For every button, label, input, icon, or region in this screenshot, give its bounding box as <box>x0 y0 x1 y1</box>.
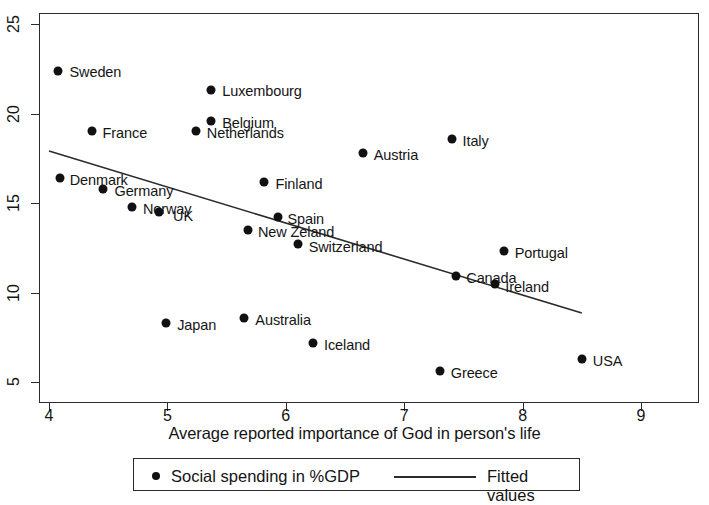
y-tick-label: 5 <box>6 367 22 397</box>
legend-label-fitted: Fitted values <box>487 467 579 505</box>
y-tick-mark <box>31 24 39 25</box>
y-tick-mark <box>31 382 39 383</box>
data-point-label: Germany <box>114 184 173 199</box>
data-point-marker <box>54 66 63 75</box>
data-point-label: Australia <box>255 313 311 328</box>
data-point-label: Finland <box>275 177 322 192</box>
data-point-marker <box>162 318 171 327</box>
y-tick-mark <box>31 114 39 115</box>
legend-label-scatter: Social spending in %GDP <box>171 467 360 486</box>
legend: Social spending in %GDP Fitted values <box>133 458 580 491</box>
data-point-marker <box>435 367 444 376</box>
data-point-marker <box>207 86 216 95</box>
legend-line-icon <box>394 476 476 478</box>
y-tick-label: 20 <box>6 99 22 129</box>
data-point-marker <box>499 247 508 256</box>
data-point-label: Italy <box>463 134 489 149</box>
y-tick-label: 25 <box>6 9 22 39</box>
x-tick-label: 6 <box>271 408 301 424</box>
data-point-label: Portugal <box>515 246 568 261</box>
y-tick-mark <box>31 203 39 204</box>
y-tick-label: 10 <box>6 278 22 308</box>
data-point-label: Netherlands <box>207 126 284 141</box>
data-point-label: USA <box>593 354 623 369</box>
data-point-label: New Zeland <box>258 225 334 240</box>
data-point-label: Sweden <box>69 65 121 80</box>
data-point-marker <box>155 207 164 216</box>
data-point-label: Greece <box>451 366 498 381</box>
data-point-label: Switzerland <box>309 240 383 255</box>
data-point-label: UK <box>173 209 193 224</box>
data-point-marker <box>309 338 318 347</box>
data-point-marker <box>207 116 216 125</box>
data-point-label: Ireland <box>505 280 549 295</box>
data-point-marker <box>55 173 64 182</box>
data-point-marker <box>99 184 108 193</box>
data-point-marker <box>577 354 586 363</box>
data-point-label: Luxembourg <box>222 84 302 99</box>
data-point-marker <box>452 272 461 281</box>
data-point-marker <box>260 177 269 186</box>
data-point-marker <box>240 313 249 322</box>
data-point-marker <box>293 240 302 249</box>
data-point-marker <box>447 134 456 143</box>
x-tick-label: 7 <box>389 408 419 424</box>
data-point-label: Japan <box>177 318 216 333</box>
x-tick-label: 8 <box>508 408 538 424</box>
x-tick-label: 9 <box>626 408 656 424</box>
data-point-label: Austria <box>374 148 418 163</box>
data-point-marker <box>191 127 200 136</box>
data-point-marker <box>127 202 136 211</box>
data-point-label: France <box>103 126 148 141</box>
x-tick-label: 4 <box>34 408 64 424</box>
data-point-marker <box>491 279 500 288</box>
x-tick-label: 5 <box>152 408 182 424</box>
data-point-marker <box>87 127 96 136</box>
data-point-marker <box>358 148 367 157</box>
x-axis-title: Average reported importance of God in pe… <box>0 424 709 443</box>
y-tick-label: 15 <box>6 188 22 218</box>
data-point-marker <box>243 225 252 234</box>
data-point-label: Iceland <box>324 338 370 353</box>
legend-marker-icon <box>152 472 160 480</box>
data-point-marker <box>273 213 282 222</box>
y-tick-mark <box>31 293 39 294</box>
